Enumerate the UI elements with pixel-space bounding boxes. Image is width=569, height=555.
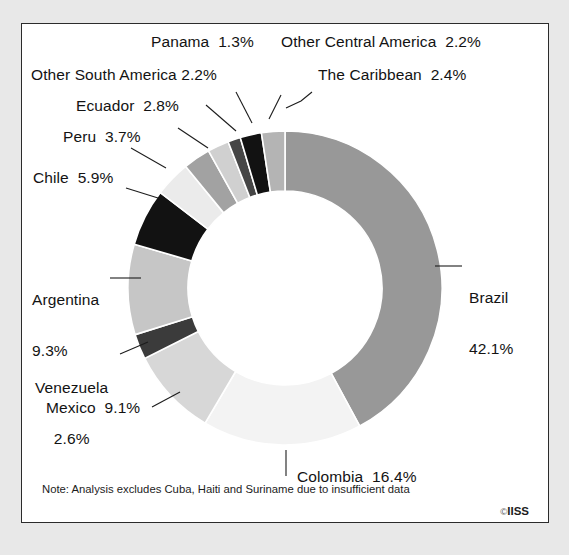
chart-figure: Panama 1.3% Other Central America 2.2% O… <box>0 0 569 555</box>
chart-note: Note: Analysis excludes Cuba, Haiti and … <box>42 483 410 495</box>
donut-slices[interactable] <box>128 131 442 445</box>
leader-line-ecuador <box>178 128 208 148</box>
slice-label-other-central-america: Other Central America 2.2% <box>281 33 481 51</box>
slice-label-ecuador: Ecuador 2.8% <box>76 97 179 115</box>
slice-label-venezuela-name: Venezuela <box>35 379 108 396</box>
slice-label-brazil-name: Brazil <box>469 289 513 306</box>
slice-label-panama: Panama 1.3% <box>151 33 254 51</box>
leader-line-peru <box>131 148 166 168</box>
slice-label-argentina-name: Argentina <box>32 291 99 308</box>
slice-label-chile: Chile 5.9% <box>33 169 113 187</box>
slice-label-brazil: Brazil 42.1% <box>469 255 513 391</box>
leader-line-other-central-america <box>269 95 281 119</box>
leader-line-chile <box>126 188 158 198</box>
slice-label-mexico: Mexico 9.1% <box>46 399 140 417</box>
slice-label-the-caribbean: The Caribbean 2.4% <box>318 66 466 84</box>
copyright-owner: IISS <box>507 505 529 517</box>
slice-label-peru: Peru 3.7% <box>63 128 141 146</box>
slice-label-brazil-value: 42.1% <box>469 340 513 357</box>
slice-label-venezuela-value: 2.6% <box>35 430 108 447</box>
leader-line-other-south-america <box>206 105 236 131</box>
copyright-credit: ©IISS <box>500 505 529 517</box>
leader-line-the-caribbean <box>286 92 312 108</box>
leader-line-panama <box>236 92 252 123</box>
slice-label-other-south-america: Other South America 2.2% <box>31 66 217 84</box>
